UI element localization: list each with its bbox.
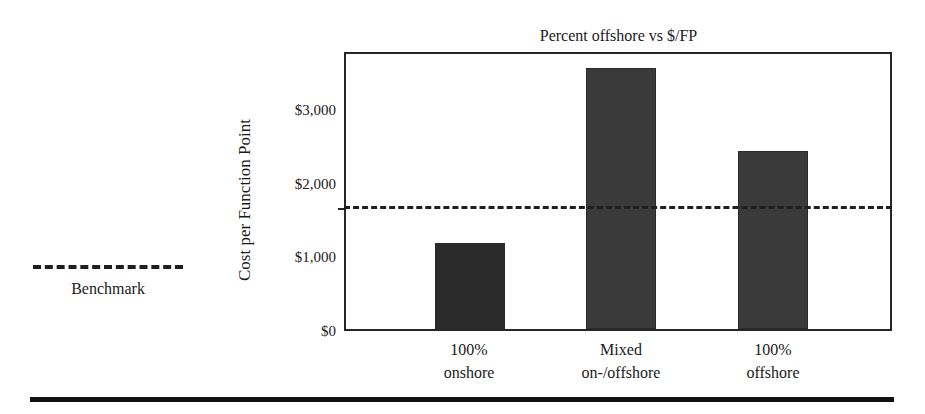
x-category-label-0: 100% onshore	[394, 338, 544, 384]
bar-100-onshore	[435, 243, 505, 329]
x-category-label-1-line1: Mixed	[546, 338, 696, 361]
x-category-label-0-line2: onshore	[394, 361, 544, 384]
x-category-label-0-line1: 100%	[394, 338, 544, 361]
legend-swatch-dashed-line	[33, 265, 183, 269]
y-tick-label-3: $3,000	[295, 103, 336, 118]
x-category-label-2-line1: 100%	[698, 338, 848, 361]
benchmark-reference-line	[344, 206, 892, 209]
y-axis-ticks: $0 $1,000 $2,000 $3,000	[268, 52, 336, 331]
y-axis-title: Cost per Function Point	[231, 80, 259, 320]
bar-100-offshore	[738, 151, 808, 329]
y-tick-label-1: $1,000	[295, 250, 336, 265]
chart-figure: Percent offshore vs $/FP Cost per Functi…	[0, 0, 925, 414]
bar-mixed-on-offshore	[586, 68, 656, 329]
x-category-label-2-line2: offshore	[698, 361, 848, 384]
legend-label-benchmark: Benchmark	[22, 279, 194, 299]
y-axis-title-text: Cost per Function Point	[235, 119, 255, 281]
plot-area	[344, 52, 892, 331]
y-tick-label-0: $0	[321, 324, 336, 339]
bottom-divider-rule	[30, 397, 894, 402]
x-category-label-2: 100% offshore	[698, 338, 848, 384]
chart-title: Percent offshore vs $/FP	[344, 26, 893, 46]
x-category-label-1: Mixed on-/offshore	[546, 338, 696, 384]
plot-inner	[346, 54, 890, 329]
x-category-label-1-line2: on-/offshore	[546, 361, 696, 384]
y-tick-label-2: $2,000	[295, 177, 336, 192]
